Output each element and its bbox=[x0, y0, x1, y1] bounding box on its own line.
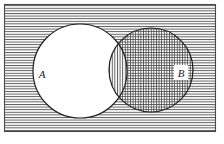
venn-diagram-figure: A B bbox=[0, 0, 224, 144]
venn-diagram-canvas: A B bbox=[0, 0, 224, 144]
set-label-a: A bbox=[38, 68, 46, 80]
set-label-b: B bbox=[178, 67, 185, 79]
